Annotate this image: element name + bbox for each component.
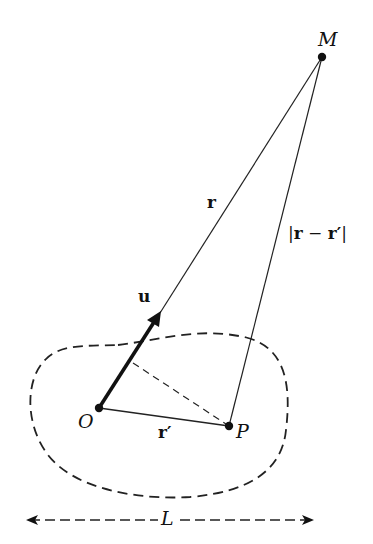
unit-vector-u bbox=[99, 319, 156, 408]
label-r: r bbox=[207, 194, 216, 211]
vector-r-line bbox=[160, 57, 322, 313]
point-M bbox=[318, 53, 326, 61]
point-O bbox=[95, 404, 103, 412]
label-O: O bbox=[78, 412, 94, 431]
diagram-canvas bbox=[0, 0, 373, 544]
label-r-minus-r-prime: ||r − r′|r − r′| bbox=[288, 225, 347, 242]
label-r-prime: r′ bbox=[158, 424, 171, 441]
projection-dashed-line bbox=[133, 363, 229, 426]
source-region-outline bbox=[30, 333, 287, 497]
point-P bbox=[225, 422, 233, 430]
label-M: M bbox=[318, 30, 337, 49]
label-P: P bbox=[236, 422, 249, 441]
label-L: L bbox=[161, 509, 174, 528]
label-u: u bbox=[138, 288, 150, 305]
